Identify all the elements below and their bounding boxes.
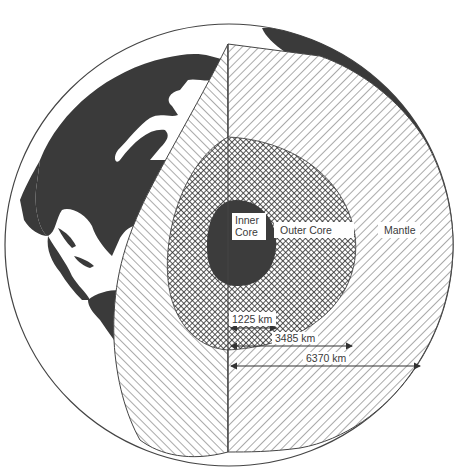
outer-core-label: Outer Core — [274, 222, 354, 238]
inner-core-label: Inner Core — [232, 213, 266, 240]
outer-core-radius-label: 3485 km — [272, 332, 318, 344]
earth-radius-label: 6370 km — [303, 352, 349, 364]
inner-core-radius-label: 1225 km — [229, 312, 276, 326]
inner-core-label-line1: Inner — [235, 214, 265, 226]
mantle-label: Mantle — [378, 222, 420, 238]
inner-core-label-line2: Core — [235, 226, 265, 238]
